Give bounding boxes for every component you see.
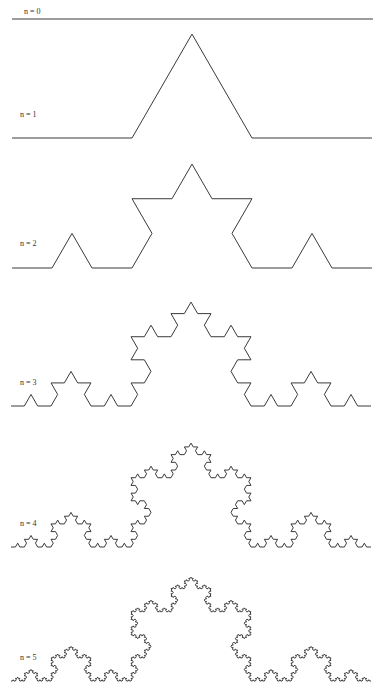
- iteration-label: n = 0: [24, 7, 41, 16]
- iteration-3: n = 3: [11, 302, 371, 406]
- koch-curve-n5: [11, 577, 371, 681]
- koch-curve-n3: [11, 302, 371, 406]
- iteration-4: n = 4: [11, 443, 371, 547]
- iteration-label: n = 5: [20, 653, 37, 662]
- iteration-label: n = 1: [20, 110, 37, 119]
- koch-curve-figure: n = 0 n = 1 n = 2 n = 3 n = 4 n = 5: [0, 0, 381, 695]
- iteration-0: n = 0: [12, 7, 373, 19]
- iteration-1: n = 1: [12, 34, 372, 138]
- iteration-label: n = 4: [20, 519, 37, 528]
- iteration-5: n = 5: [11, 577, 371, 681]
- koch-curve-n4: [11, 443, 371, 547]
- iteration-label: n = 3: [20, 378, 37, 387]
- iteration-label: n = 2: [20, 239, 37, 248]
- iteration-2: n = 2: [12, 164, 372, 268]
- koch-curve-n2: [12, 164, 372, 268]
- koch-curve-n1: [12, 34, 372, 138]
